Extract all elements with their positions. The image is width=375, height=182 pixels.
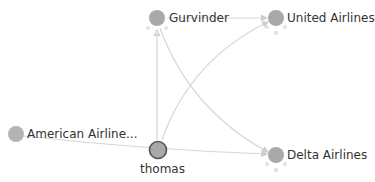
node-label-american: American Airline... xyxy=(27,127,138,141)
edge-thomas-united[interactable] xyxy=(162,22,268,140)
edge-gurvinder-delta[interactable] xyxy=(160,28,268,152)
node-label-delta: Delta Airlines xyxy=(287,148,367,162)
node-united[interactable] xyxy=(268,10,284,26)
node-label-united: United Airlines xyxy=(287,11,375,25)
node-american[interactable] xyxy=(8,126,24,142)
node-delta[interactable] xyxy=(268,147,284,163)
node-label-gurvinder: Gurvinder xyxy=(169,11,229,25)
node-label-thomas: thomas xyxy=(140,162,185,176)
node-gurvinder[interactable] xyxy=(149,10,165,26)
node-thomas[interactable] xyxy=(150,142,167,159)
